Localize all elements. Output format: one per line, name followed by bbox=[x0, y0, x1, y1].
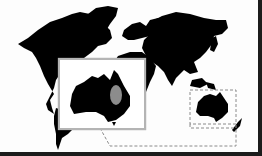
frame-border-right bbox=[258, 0, 262, 156]
highlighted-region bbox=[110, 85, 122, 105]
frame-border-bottom bbox=[0, 152, 262, 156]
australia-inset-panel bbox=[58, 58, 146, 130]
australia-landmass bbox=[196, 92, 228, 122]
tasmania-landmass bbox=[112, 122, 116, 126]
new-guinea-landmass bbox=[206, 82, 216, 90]
new-zealand-landmass bbox=[232, 118, 242, 132]
indonesia-landmass bbox=[190, 78, 208, 88]
australia-inset-map bbox=[60, 60, 144, 128]
map-figure bbox=[0, 0, 262, 156]
